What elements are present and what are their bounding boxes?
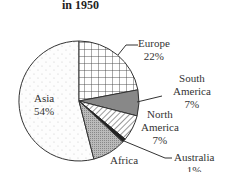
leader-south-america (137, 96, 162, 102)
leader-europe (118, 45, 138, 55)
label-australia: Australia 1% (174, 151, 214, 172)
label-europe: Europe 22% (138, 37, 170, 63)
label-africa: Africa (110, 154, 138, 167)
label-asia: Asia 54% (34, 92, 54, 118)
label-north-america: North America 7% (141, 108, 179, 147)
label-south-america: South America 7% (173, 72, 211, 111)
